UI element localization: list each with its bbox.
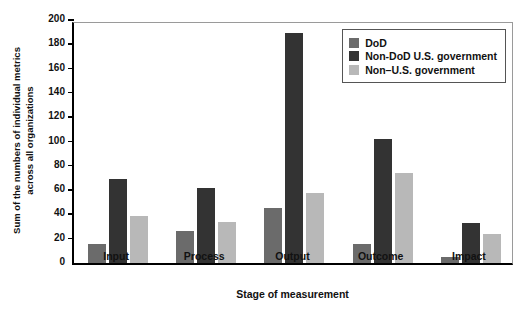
- x-tick-label-input: Input: [72, 250, 160, 262]
- legend-label: Non-DoD U.S. government: [365, 50, 497, 62]
- bar-output-non-dod-u-s-government: [285, 33, 303, 263]
- legend-label: DoD: [365, 37, 387, 49]
- y-tick-label: 160: [48, 62, 65, 73]
- y-tick-label: 100: [48, 135, 65, 146]
- plot-area: 020406080100120140160180200 DoDNon-DoD U…: [72, 22, 513, 265]
- bar-chart-figure: Sum of the numbers of individual metrics…: [0, 0, 531, 317]
- y-tick-label: 180: [48, 37, 65, 48]
- x-tick-label-output: Output: [248, 250, 336, 262]
- x-axis-title: Stage of measurement: [72, 288, 513, 300]
- y-tick-label: 140: [48, 86, 65, 97]
- legend-label: Non–U.S. government: [365, 64, 475, 76]
- y-axis-title: Sum of the numbers of individual metrics…: [0, 0, 46, 280]
- y-axis-title-line-1: Sum of the numbers of individual metrics: [11, 47, 24, 234]
- legend-item-1: Non-DoD U.S. government: [349, 50, 497, 62]
- y-tick-label: 0: [59, 256, 65, 267]
- y-tick-label: 20: [54, 232, 65, 243]
- x-tick-label-process: Process: [160, 250, 248, 262]
- legend-swatch-icon: [349, 51, 359, 61]
- y-tick-label: 40: [54, 207, 65, 218]
- x-tick-label-outcome: Outcome: [337, 250, 425, 262]
- bar-group-process: [162, 23, 250, 263]
- bar-group-input: [74, 23, 162, 263]
- y-tick-label: 120: [48, 110, 65, 121]
- y-axis-title-line-2: across all organizations: [23, 47, 36, 234]
- bar-group-output: [250, 23, 338, 263]
- y-tick-label: 60: [54, 183, 65, 194]
- x-tick-label-impact: Impact: [425, 250, 513, 262]
- legend-swatch-icon: [349, 65, 359, 75]
- legend-swatch-icon: [349, 38, 359, 48]
- bar-outcome-non-dod-u-s-government: [374, 139, 392, 263]
- legend: DoDNon-DoD U.S. governmentNon–U.S. gover…: [342, 29, 506, 83]
- legend-item-0: DoD: [349, 37, 497, 49]
- y-tick-label: 80: [54, 159, 65, 170]
- y-tick-mark: [68, 19, 74, 21]
- y-tick-label: 200: [48, 13, 65, 24]
- legend-item-2: Non–U.S. government: [349, 64, 497, 76]
